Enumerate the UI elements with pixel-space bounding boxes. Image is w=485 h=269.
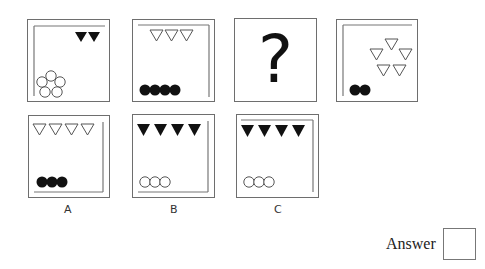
answer-label: Answer: [386, 235, 436, 253]
white-triangle-icon: [33, 124, 46, 135]
frame-2-figure: [133, 20, 216, 103]
black-triangle-icon: [75, 32, 87, 42]
option-b-label: B: [170, 203, 178, 216]
frame-1-figure: [28, 20, 111, 103]
white-triangle-icon: [165, 30, 178, 41]
black-circle-icon: [360, 85, 371, 96]
white-triangle-icon: [180, 30, 193, 41]
black-triangle-icon: [241, 125, 254, 137]
answer-input-box[interactable]: [443, 228, 476, 260]
black-triangle-icon: [137, 124, 150, 136]
white-circle-icon: [150, 177, 160, 187]
black-circle-icon: [47, 177, 58, 188]
white-circle-icon: [46, 71, 56, 81]
black-triangle-icon: [258, 125, 271, 137]
white-triangle-icon: [150, 30, 163, 41]
black-triangle-icon: [88, 32, 100, 42]
white-circle-icon: [244, 177, 254, 187]
sequence-frame-2: [132, 19, 215, 102]
black-circle-icon: [140, 85, 151, 96]
white-triangle-icon: [49, 124, 62, 135]
black-circle-icon: [37, 177, 48, 188]
option-b-figure: [133, 115, 216, 199]
black-circle-icon: [150, 85, 161, 96]
sequence-frame-3-unknown: ?: [234, 18, 317, 102]
white-triangle-icon: [65, 124, 78, 135]
sequence-frame-4: [336, 19, 418, 102]
black-circle-icon: [170, 85, 181, 96]
black-triangle-icon: [275, 125, 288, 137]
black-triangle-icon: [171, 124, 184, 136]
white-circle-icon: [55, 77, 65, 87]
option-a-label: A: [64, 203, 72, 216]
option-c-label: C: [274, 203, 282, 216]
option-a-figure: [29, 116, 111, 199]
white-circle-icon: [254, 177, 264, 187]
black-triangle-icon: [188, 124, 201, 136]
white-circle-icon: [264, 177, 274, 187]
white-triangle-icon: [385, 39, 398, 50]
white-circle-icon: [140, 177, 150, 187]
question-mark: ?: [235, 19, 316, 101]
black-triangle-icon: [292, 125, 305, 137]
white-triangle-icon: [370, 49, 383, 60]
black-circle-icon: [57, 177, 68, 188]
black-triangle-icon: [154, 124, 167, 136]
option-c[interactable]: [236, 114, 319, 198]
frame-4-figure: [337, 20, 419, 103]
option-b[interactable]: [132, 114, 215, 198]
option-c-figure: [237, 115, 320, 199]
white-circle-icon: [160, 177, 170, 187]
white-circle-icon: [37, 77, 47, 87]
option-a[interactable]: [28, 115, 110, 198]
white-triangle-icon: [81, 124, 94, 135]
white-triangle-icon: [377, 65, 390, 76]
white-circle-icon: [52, 87, 62, 97]
black-circle-icon: [350, 85, 361, 96]
white-triangle-icon: [393, 65, 406, 76]
black-circle-icon: [160, 85, 171, 96]
white-triangle-icon: [399, 49, 412, 60]
white-circle-icon: [40, 87, 50, 97]
sequence-frame-1: [27, 19, 110, 102]
